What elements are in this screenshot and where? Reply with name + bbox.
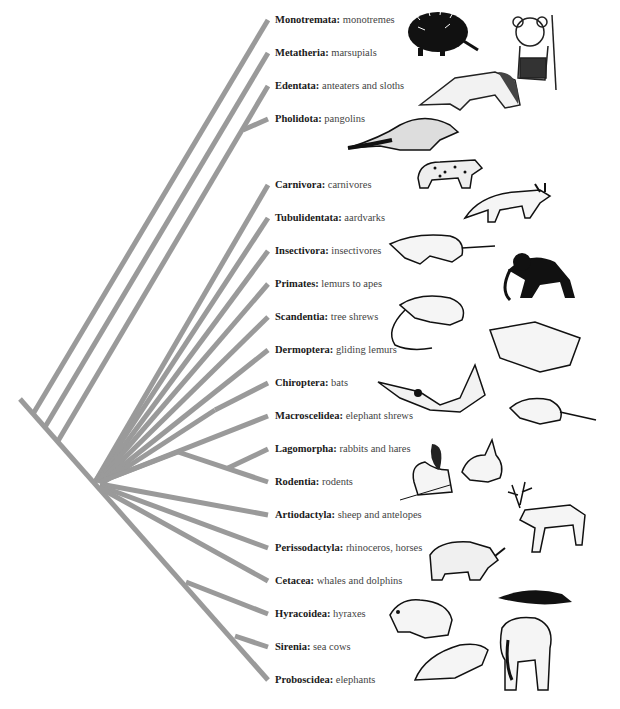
taxon-monotremata: Monotremata: monotremes xyxy=(275,14,395,26)
order-name: Pholidota: xyxy=(275,113,322,124)
order-name: Rodentia: xyxy=(275,476,319,487)
common-name: sheep and antelopes xyxy=(335,509,422,520)
reindeer-icon xyxy=(508,482,585,552)
manatee-icon xyxy=(415,644,488,680)
taxon-artiodactyla: Artiodactyla: sheep and antelopes xyxy=(275,509,422,521)
order-name: Hyracoidea: xyxy=(275,608,330,619)
order-name: Dermoptera: xyxy=(275,344,333,355)
taxon-metatheria: Metatheria: marsupials xyxy=(275,47,377,59)
common-name: monotremes xyxy=(340,14,395,25)
elephant-shrew-icon xyxy=(510,399,596,424)
common-name: elephant shrews xyxy=(343,410,413,421)
order-name: Proboscidea: xyxy=(275,674,333,685)
order-name: Chiroptera: xyxy=(275,377,328,388)
taxon-lagomorpha: Lagomorpha: rabbits and hares xyxy=(275,443,411,455)
common-name: rabbits and hares xyxy=(337,443,411,454)
common-name: hyraxes xyxy=(330,608,365,619)
common-name: whales and dolphins xyxy=(314,575,402,586)
order-name: Sirenia: xyxy=(275,641,310,652)
taxon-pholidota: Pholidota: pangolins xyxy=(275,113,365,125)
common-name: lemurs to apes xyxy=(319,278,382,289)
order-name: Monotremata: xyxy=(275,14,340,25)
taxon-primates: Primates: lemurs to apes xyxy=(275,278,382,290)
anteater-icon xyxy=(420,72,520,110)
taxon-chiroptera: Chiroptera: bats xyxy=(275,377,348,389)
order-name: Perissodactyla: xyxy=(275,542,343,553)
taxon-proboscidea: Proboscidea: elephants xyxy=(275,674,375,686)
common-name: sea cows xyxy=(310,641,350,652)
taxon-insectivora: Insectivora: insectivores xyxy=(275,245,381,257)
common-name: elephants xyxy=(333,674,375,685)
common-name: carnivores xyxy=(325,179,371,190)
common-name: rodents xyxy=(319,476,353,487)
dolphin-icon xyxy=(498,590,572,604)
monkey-icon xyxy=(505,253,575,300)
order-name: Primates: xyxy=(275,278,319,289)
colugo-icon xyxy=(490,322,580,372)
common-name: marsupials xyxy=(329,47,377,58)
common-name: gliding lemurs xyxy=(333,344,397,355)
common-name: pangolins xyxy=(322,113,365,124)
order-name: Insectivora: xyxy=(275,245,329,256)
shrew-icon xyxy=(390,235,495,264)
common-name: insectivores xyxy=(329,245,382,256)
common-name: aardvarks xyxy=(342,212,385,223)
branch-lagomorpha xyxy=(228,449,268,468)
taxon-dermoptera: Dermoptera: gliding lemurs xyxy=(275,344,397,356)
taxon-hyracoidea: Hyracoidea: hyraxes xyxy=(275,608,366,620)
rabbit-icon xyxy=(462,440,502,482)
order-name: Tubulidentata: xyxy=(275,212,342,223)
tree-shrew-icon xyxy=(392,296,464,349)
common-name: anteaters and sloths xyxy=(319,80,404,91)
order-name: Artiodactyla: xyxy=(275,509,335,520)
order-name: Scandentia: xyxy=(275,311,328,322)
taxon-perissodactyla: Perissodactyla: rhinoceros, horses xyxy=(275,542,422,554)
taxon-sirenia: Sirenia: sea cows xyxy=(275,641,351,653)
taxon-scandentia: Scandentia: tree shrews xyxy=(275,311,378,323)
order-name: Lagomorpha: xyxy=(275,443,337,454)
taxon-carnivora: Carnivora: carnivores xyxy=(275,179,372,191)
order-name: Macroscelidea: xyxy=(275,410,343,421)
bat-icon xyxy=(378,365,485,412)
leopard-icon xyxy=(418,160,482,188)
hyrax-icon xyxy=(390,600,452,638)
order-name: Cetacea: xyxy=(275,575,314,586)
elephant-icon xyxy=(501,617,551,690)
taxon-cetacea: Cetacea: whales and dolphins xyxy=(275,575,402,587)
koala-icon xyxy=(513,15,556,90)
order-name: Carnivora: xyxy=(275,179,325,190)
echidna-icon xyxy=(408,8,478,56)
common-name: rhinoceros, horses xyxy=(343,542,422,553)
aardvark-icon xyxy=(465,183,550,222)
taxon-rodentia: Rodentia: rodents xyxy=(275,476,353,488)
common-name: tree shrews xyxy=(328,311,378,322)
order-name: Edentata: xyxy=(275,80,319,91)
rhinoceros-icon xyxy=(430,542,505,580)
order-name: Metatheria: xyxy=(275,47,329,58)
branch-tubulidentata xyxy=(95,218,268,482)
taxon-edentata: Edentata: anteaters and sloths xyxy=(275,80,404,92)
common-name: bats xyxy=(328,377,348,388)
taxon-tubulidentata: Tubulidentata: aardvarks xyxy=(275,212,385,224)
taxon-macroscelidea: Macroscelidea: elephant shrews xyxy=(275,410,413,422)
